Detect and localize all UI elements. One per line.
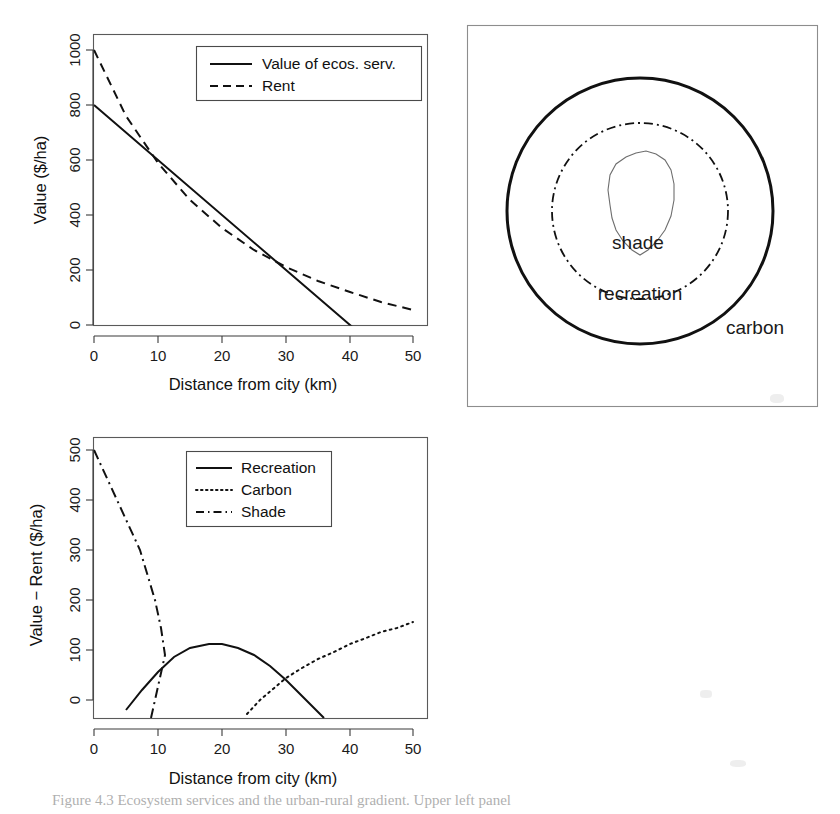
legend-label-value-ecos-serv: Value of ecos. serv. — [262, 55, 396, 72]
series-shade — [94, 450, 165, 718]
y-tick-label: 300 — [66, 537, 83, 562]
chart-value-minus-rent: 0 100 200 300 400 500 Value − Rent ($/ha… — [0, 410, 460, 800]
x-axis-bottom-left: 0 10 20 30 40 50 — [90, 729, 422, 757]
zone-label-shade: shade — [612, 232, 664, 253]
series-recreation — [126, 644, 324, 718]
y-tick-label: 400 — [66, 202, 83, 227]
x-tick-label: 50 — [405, 347, 422, 364]
zone-label-recreation: recreation — [598, 283, 683, 304]
x-tick-label: 10 — [150, 347, 167, 364]
y-tick-label: 800 — [66, 92, 83, 117]
x-tick-label: 40 — [342, 740, 359, 757]
series-value-ecos-serv — [94, 105, 363, 336]
diagram-concentric-zones: shade recreation carbon — [460, 0, 840, 415]
x-tick-label: 40 — [342, 347, 359, 364]
x-tick-label: 20 — [214, 740, 231, 757]
scan-smudge — [700, 690, 712, 698]
x-tick-label: 30 — [278, 740, 295, 757]
legend-bottom-left: Recreation Carbon Shade — [187, 452, 332, 527]
x-tick-label: 10 — [150, 740, 167, 757]
y-tick-label: 0 — [66, 696, 83, 704]
chart-svg-bottom-left: 0 100 200 300 400 500 Value − Rent ($/ha… — [0, 410, 460, 800]
y-tick-label: 500 — [66, 437, 83, 462]
y-tick-label: 1000 — [66, 33, 83, 66]
scan-smudge — [770, 394, 784, 403]
x-tick-label: 20 — [214, 347, 231, 364]
x-axis-title: Distance from city (km) — [169, 375, 338, 393]
x-tick-label: 50 — [405, 740, 422, 757]
legend-label-recreation: Recreation — [241, 459, 316, 476]
x-axis-title: Distance from city (km) — [169, 769, 338, 787]
x-tick-label: 0 — [90, 347, 98, 364]
chart-svg-top-left: 0 200 400 600 800 1000 Value ($/ha) 0 10 — [0, 0, 460, 410]
y-axis-title: Value ($/ha) — [31, 136, 49, 225]
x-tick-label: 30 — [278, 347, 295, 364]
scan-smudge — [730, 760, 746, 767]
x-axis-top-left: 0 10 20 30 40 50 — [90, 336, 422, 364]
figure-root: 0 200 400 600 800 1000 Value ($/ha) 0 10 — [0, 0, 840, 814]
y-tick-label: 400 — [66, 487, 83, 512]
y-axis-bottom-left: 0 100 200 300 400 500 — [66, 437, 93, 704]
y-tick-label: 0 — [66, 321, 83, 329]
diagram-svg: shade recreation carbon — [460, 0, 840, 415]
legend-label-rent: Rent — [262, 77, 295, 94]
x-tick-label: 0 — [90, 740, 98, 757]
diagram-frame — [468, 26, 818, 407]
chart-value-vs-distance: 0 200 400 600 800 1000 Value ($/ha) 0 10 — [0, 0, 460, 410]
y-axis-title: Value − Rent ($/ha) — [27, 504, 45, 646]
y-tick-label: 100 — [66, 637, 83, 662]
y-tick-label: 600 — [66, 147, 83, 172]
figure-caption-area: Figure 4.3 Ecosystem services and the ur… — [0, 792, 840, 814]
y-axis-top-left: 0 200 400 600 800 1000 — [66, 33, 93, 329]
legend-label-carbon: Carbon — [241, 481, 292, 498]
figure-caption: Figure 4.3 Ecosystem services and the ur… — [52, 792, 511, 809]
legend-top-left: Value of ecos. serv. Rent — [197, 47, 422, 101]
y-tick-label: 200 — [66, 587, 83, 612]
zone-label-carbon: carbon — [726, 317, 784, 338]
legend-label-shade: Shade — [241, 503, 286, 520]
y-tick-label: 200 — [66, 257, 83, 282]
